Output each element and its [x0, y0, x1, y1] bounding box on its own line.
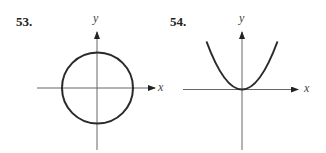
problem-number: 53. — [16, 14, 32, 30]
x-axis-label: x — [304, 81, 309, 96]
problem-53: 53. y x — [0, 0, 163, 153]
problem-number: 54. — [170, 14, 186, 30]
y-axis-label: y — [239, 11, 244, 26]
problem-54: 54. y x — [163, 0, 326, 153]
y-axis-label: y — [93, 11, 98, 26]
